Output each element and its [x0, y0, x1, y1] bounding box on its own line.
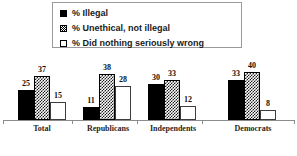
bar: 12 — [180, 106, 196, 120]
legend-item-label: % Illegal — [72, 8, 108, 18]
category-label: Independents — [150, 124, 196, 133]
bar-value-label: 8 — [266, 99, 270, 108]
bar-value-label: 33 — [168, 69, 176, 78]
bar-value-label: 37 — [38, 65, 46, 74]
plot-area: 25371511382830331233408 — [0, 55, 297, 121]
bar-group-bars: 113828 — [83, 55, 131, 120]
bar: 15 — [50, 102, 66, 120]
axis-tick — [72, 121, 73, 124]
legend-item-nothing-wrong: % Did nothing seriously wrong — [60, 36, 241, 50]
bar-value-label: 12 — [184, 95, 192, 104]
bar-group-bars: 303312 — [148, 55, 196, 120]
bar: 25 — [18, 90, 34, 120]
bar: 38 — [99, 74, 115, 120]
bar: 8 — [260, 110, 276, 120]
bar-value-label: 38 — [103, 63, 111, 72]
axis-tick — [294, 121, 295, 124]
solid-black-square-icon — [60, 10, 67, 17]
open-square-icon — [60, 40, 67, 47]
bar-value-label: 28 — [119, 75, 127, 84]
hatched-square-icon — [60, 25, 67, 32]
bar: 40 — [244, 72, 260, 120]
bar-chart: % Illegal % Unethical, not illegal % Did… — [0, 0, 297, 156]
bar-group-bars: 253715 — [18, 55, 66, 120]
bar-value-label: 11 — [87, 96, 95, 105]
bar-value-label: 15 — [54, 91, 62, 100]
legend-item-label: % Unethical, not illegal — [72, 23, 170, 33]
legend-item-label: % Did nothing seriously wrong — [72, 38, 204, 48]
category-label: Republicans — [87, 124, 129, 133]
bar: 37 — [34, 76, 50, 120]
axis-tick — [3, 121, 4, 124]
x-axis-line — [3, 120, 295, 121]
axis-tick — [202, 121, 203, 124]
category-label: Democrats — [235, 124, 272, 133]
bar: 11 — [83, 107, 99, 120]
bar-group-bars: 33408 — [228, 55, 276, 120]
bar: 33 — [228, 80, 244, 120]
bar-value-label: 40 — [248, 61, 256, 70]
category-label: Total — [33, 124, 51, 133]
axis-tick — [137, 121, 138, 124]
bar: 30 — [148, 84, 164, 120]
bar-value-label: 30 — [152, 73, 160, 82]
bar: 33 — [164, 80, 180, 120]
bar-value-label: 25 — [22, 79, 30, 88]
bar: 28 — [115, 86, 131, 120]
legend-item-illegal: % Illegal — [60, 6, 241, 20]
chart-legend: % Illegal % Unethical, not illegal % Did… — [52, 2, 242, 48]
legend-item-unethical: % Unethical, not illegal — [60, 21, 241, 35]
bar-value-label: 33 — [232, 69, 240, 78]
